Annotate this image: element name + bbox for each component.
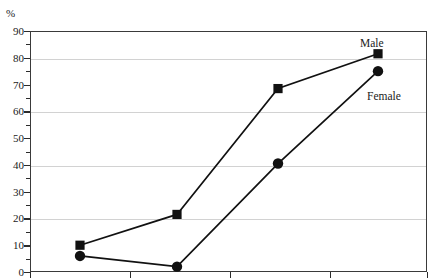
y-axis-minor-tick (26, 152, 30, 153)
y-axis-major-tick (24, 218, 30, 219)
gridline (31, 219, 426, 220)
x-axis-tick (30, 272, 31, 278)
y-axis-major-tick (24, 85, 30, 86)
y-axis-major-tick (24, 165, 30, 166)
y-axis-tick-label: 90 (4, 26, 24, 37)
y-axis-tick-label: 10 (4, 240, 24, 251)
y-axis-minor-tick (26, 259, 30, 260)
gridline (31, 112, 426, 113)
y-axis-minor-tick (26, 205, 30, 206)
x-axis-tick (330, 272, 331, 278)
y-axis-tick-label: 0 (4, 267, 24, 278)
y-axis-major-tick (24, 111, 30, 112)
y-axis-tick-label: 60 (4, 106, 24, 117)
y-axis-tick-label: 70 (4, 79, 24, 90)
gridline (31, 59, 426, 60)
y-axis-minor-tick (26, 98, 30, 99)
series-label-female: Female (367, 91, 401, 103)
y-axis-major-tick (24, 138, 30, 139)
x-axis-tick (230, 272, 231, 278)
y-axis-major-tick (24, 245, 30, 246)
y-axis-tick-label: 30 (4, 186, 24, 197)
y-axis-tick-label: 50 (4, 133, 24, 144)
x-axis-tick (130, 272, 131, 278)
y-axis-major-tick (24, 31, 30, 32)
line-chart: % 0102030405060708090 MaleFemale (0, 0, 442, 278)
y-axis-minor-tick (26, 44, 30, 45)
series-label-male: Male (360, 38, 384, 50)
gridline (31, 166, 426, 167)
x-axis-tick (427, 272, 428, 278)
y-axis-tick-label: 80 (4, 52, 24, 63)
y-axis-minor-tick (26, 71, 30, 72)
y-axis-major-tick (24, 58, 30, 59)
y-axis-minor-tick (26, 178, 30, 179)
y-axis-minor-tick (26, 232, 30, 233)
y-axis-tick-label: 40 (4, 159, 24, 170)
plot-area (30, 31, 427, 272)
y-axis-unit-label: % (6, 8, 15, 19)
y-axis-minor-tick (26, 125, 30, 126)
y-axis-tick-label: 20 (4, 213, 24, 224)
y-axis-major-tick (24, 192, 30, 193)
